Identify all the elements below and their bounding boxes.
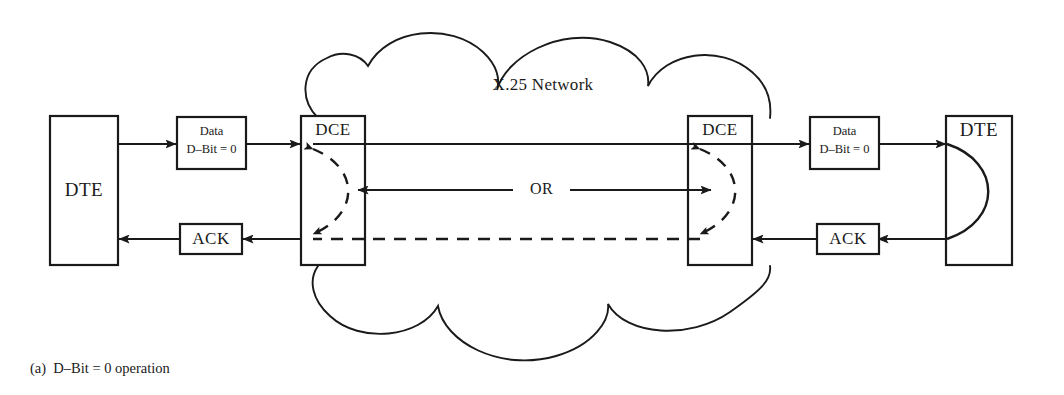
or-label: OR xyxy=(530,180,553,197)
left-dte-label: DTE xyxy=(65,179,103,200)
left-data-label-line2: D–Bit = 0 xyxy=(186,142,236,156)
left-ack-packet: ACK xyxy=(180,224,242,254)
left-dce-label: DCE xyxy=(315,120,351,139)
right-ack-label: ACK xyxy=(829,229,867,248)
left-data-label-line1: Data xyxy=(200,124,224,138)
right-data-packet: Data D–Bit = 0 xyxy=(810,117,879,169)
left-dce-node: DCE xyxy=(301,116,365,265)
figure-canvas: X.25 Network DTE Data D–Bit = 0 ACK DCE xyxy=(0,0,1064,395)
right-data-label-line1: Data xyxy=(833,124,857,138)
figure-caption: (a) D–Bit = 0 operation xyxy=(30,360,170,377)
right-data-label-line2: D–Bit = 0 xyxy=(819,142,869,156)
left-dte-node: DTE xyxy=(50,116,118,265)
right-dce-label: DCE xyxy=(702,120,738,139)
or-bidirectional-connector: OR xyxy=(358,180,711,197)
right-ack-packet: ACK xyxy=(817,224,879,254)
cloud-outline-bottom xyxy=(313,266,771,360)
x25-d-bit-diagram: X.25 Network DTE Data D–Bit = 0 ACK DCE xyxy=(0,0,1064,395)
right-dte-node: DTE xyxy=(946,116,1012,265)
cloud-label: X.25 Network xyxy=(493,75,594,94)
left-data-packet: Data D–Bit = 0 xyxy=(177,117,246,169)
left-ack-label: ACK xyxy=(192,229,230,248)
right-dte-label: DTE xyxy=(960,119,998,140)
